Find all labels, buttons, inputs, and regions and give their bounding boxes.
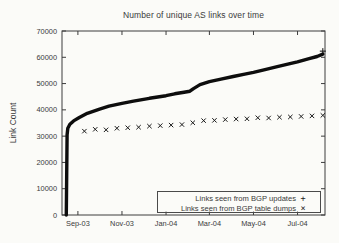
y-tick-label: 40000 bbox=[36, 105, 57, 114]
legend-item-bgp-updates: Links seen from BGP updates + bbox=[160, 193, 310, 203]
x-tick-label: Jul-04 bbox=[287, 219, 307, 228]
x-tick-label: Mar-04 bbox=[198, 219, 221, 228]
y-tick-label: 20000 bbox=[36, 158, 57, 167]
x-tick-label: Sep-03 bbox=[66, 219, 90, 228]
y-tick-label: 10000 bbox=[36, 184, 57, 193]
legend-item-bgp-table-dumps: Links seen from BGP table dumps × bbox=[160, 203, 310, 213]
x-marker-icon: × bbox=[296, 204, 310, 213]
x-tick-label: Jan-04 bbox=[155, 219, 178, 228]
y-tick-label: 50000 bbox=[36, 79, 57, 88]
x-tick-label: May-04 bbox=[241, 219, 266, 228]
y-tick-label: 70000 bbox=[36, 27, 57, 36]
y-tick-label: 30000 bbox=[36, 132, 57, 141]
y-tick-label: 60000 bbox=[36, 53, 57, 62]
legend: Links seen from BGP updates + Links seen… bbox=[157, 191, 321, 213]
chart-figure: Number of unique AS links over time Link… bbox=[0, 0, 339, 243]
plus-marker-icon: + bbox=[296, 194, 310, 203]
y-tick-label: 0 bbox=[53, 211, 57, 220]
x-tick-label: Nov-03 bbox=[110, 219, 134, 228]
legend-label-bgp-table-dumps: Links seen from BGP table dumps bbox=[181, 204, 296, 213]
legend-label-bgp-updates: Links seen from BGP updates bbox=[195, 194, 296, 203]
